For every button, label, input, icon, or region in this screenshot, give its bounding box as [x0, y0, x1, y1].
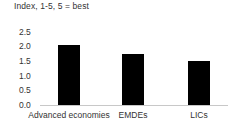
- bar-chart: Index, 1-5, 5 = best 0.00.51.01.52.02.5 …: [0, 0, 243, 132]
- x-axis-line: [40, 105, 228, 106]
- y-axis-tick-label: 2.5: [19, 27, 41, 37]
- y-axis-tick-label: 2.0: [19, 41, 41, 51]
- bar: [188, 61, 210, 105]
- y-axis-tick-label: 1.5: [19, 56, 41, 66]
- y-axis-tick-label: 0.0: [19, 100, 41, 110]
- y-axis-tick-label: 0.5: [19, 85, 41, 95]
- y-axis-tick-label: 1.0: [19, 71, 41, 81]
- x-axis-tick-label: EMDEs: [119, 110, 148, 120]
- plot-area: 0.00.51.01.52.02.5 Advanced economiesEMD…: [0, 0, 243, 132]
- bar: [122, 54, 144, 105]
- x-axis-tick-label: LICs: [190, 110, 207, 120]
- x-axis-tick-label: Advanced economies: [28, 110, 109, 120]
- bar: [58, 45, 80, 105]
